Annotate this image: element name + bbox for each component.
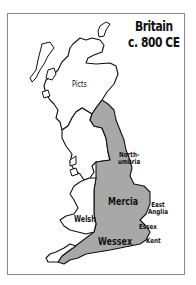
northern-isles [98, 22, 110, 37]
title-line-2: c. 800 CE [128, 34, 180, 50]
label-east-anglia: East Anglia [148, 202, 168, 216]
welsh-territory [60, 178, 96, 234]
label-essex: Essex [139, 224, 157, 231]
label-welsh: Welsh [74, 215, 96, 224]
label-wessex: Wessex [98, 236, 132, 247]
label-kent: Kent [146, 238, 161, 245]
label-picts: Picts [72, 80, 87, 89]
title-line-1: Britain [128, 18, 180, 34]
label-east-anglia-line2: Anglia [148, 209, 168, 216]
map-title: Britain c. 800 CE [128, 18, 180, 50]
label-northumbria-line2: umbria [118, 159, 140, 166]
mull-island [42, 90, 50, 98]
anglesey-island [70, 168, 78, 176]
label-mercia: Mercia [108, 196, 138, 207]
label-northumbria: North- umbria [118, 152, 140, 166]
